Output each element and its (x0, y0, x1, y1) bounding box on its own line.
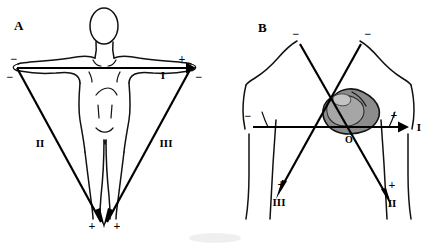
panel-a-sign-left-lower: − (7, 70, 14, 84)
panel-a-sign-left-upper: − (11, 52, 18, 66)
panel-a-sign-right-lower: − (196, 70, 203, 84)
panel-b-origin-label: O (345, 134, 353, 145)
panel-b-lead-2-label: II (388, 197, 397, 209)
panel-a-lead-1-label: I (161, 69, 165, 81)
panel-b-letter: B (258, 20, 267, 35)
panel-b-lead-3-positive: + (278, 177, 285, 191)
panel-b-lead-1-label: I (417, 121, 421, 133)
panel-a-sign-apex-left: + (89, 219, 96, 233)
heart-atrium-highlight (333, 94, 351, 106)
panel-b-lead-2-positive: + (389, 178, 396, 192)
scan-watermark (189, 233, 241, 243)
panel-a-sign-right-upper: + (179, 52, 186, 66)
panel-b-lead-1-negative: − (245, 109, 252, 123)
panel-b-lead-2-negative: − (293, 27, 300, 41)
panel-b-lead-1-positive: + (391, 108, 398, 122)
panel-a-lead-3-label: III (160, 137, 173, 149)
panel-a-sign-apex-right: + (114, 219, 121, 233)
panel-a-lead-2-label: II (36, 137, 45, 149)
figure-canvas: A − − + − + + I II III (0, 0, 431, 243)
panel-b-lead-3-negative: − (365, 27, 372, 41)
ecg-lead-figure: A − − + − + + I II III (0, 0, 431, 243)
panel-b-lead-3-label: III (273, 196, 286, 208)
panel-a-letter: A (14, 18, 24, 33)
